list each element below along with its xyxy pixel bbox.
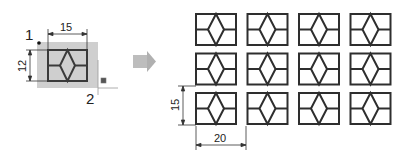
point-2-label: 2: [86, 90, 94, 107]
source-group: 1 2 15 12: [16, 21, 118, 107]
dimension-row-spacing-label: 15: [169, 99, 181, 111]
array-tile: [196, 14, 236, 45]
diagram-canvas: 1 2 15 12 1: [0, 0, 408, 159]
array-tile: [351, 14, 391, 45]
array-tile: [196, 54, 236, 85]
array-tile: [196, 93, 236, 124]
array-tile: [248, 14, 288, 45]
array-tile: [299, 14, 339, 45]
dimension-width-label: 15: [60, 21, 72, 33]
dimension-col-spacing-label: 20: [214, 132, 226, 144]
tile-array: [196, 14, 391, 124]
array-tile: [248, 54, 288, 85]
right-arrow-icon: [133, 51, 156, 72]
array-tile: [351, 54, 391, 85]
dimension-height-label: 12: [16, 60, 28, 72]
array-tile: [299, 54, 339, 85]
point-1-marker: [37, 41, 41, 45]
array-tile: [248, 93, 288, 124]
array-tile: [299, 93, 339, 124]
point-1-label: 1: [25, 26, 33, 43]
point-2-marker: [101, 78, 106, 83]
array-tile: [351, 93, 391, 124]
